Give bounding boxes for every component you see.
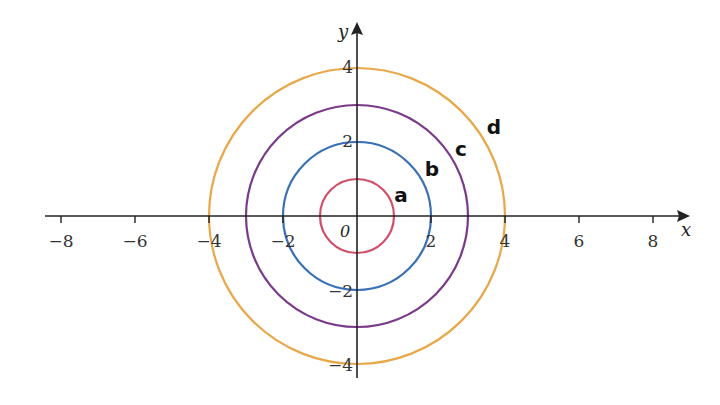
x-axis: [45, 210, 690, 222]
x-tick-label: 2: [426, 231, 437, 251]
origin-label: 0: [340, 222, 350, 241]
x-tick-label: 8: [648, 231, 659, 251]
y-tick-label: 2: [342, 131, 353, 151]
x-tick-label: −8: [48, 231, 73, 251]
circle-label-d: d: [487, 115, 501, 139]
y-tick-label: 4: [342, 57, 353, 77]
x-axis-label: x: [681, 219, 691, 240]
y-tick-label: −4: [328, 355, 353, 375]
y-tick-label: −2: [328, 281, 353, 301]
x-tick-label: −4: [196, 231, 221, 251]
x-tick-label: −2: [270, 231, 295, 251]
x-tick-label: 6: [574, 231, 585, 251]
y-axis-label: y: [337, 21, 349, 42]
circle-label-c: c: [455, 137, 467, 161]
chart-canvas: −8−6−4−22468 42−2−4 x y 0 abcd: [0, 0, 720, 405]
circle-label-a: a: [394, 183, 408, 207]
circle-labels: abcd: [394, 115, 501, 207]
x-ticks: −8−6−4−22468: [48, 216, 658, 251]
x-tick-label: 4: [500, 231, 511, 251]
circle-label-b: b: [425, 157, 439, 181]
x-tick-label: −6: [122, 231, 147, 251]
